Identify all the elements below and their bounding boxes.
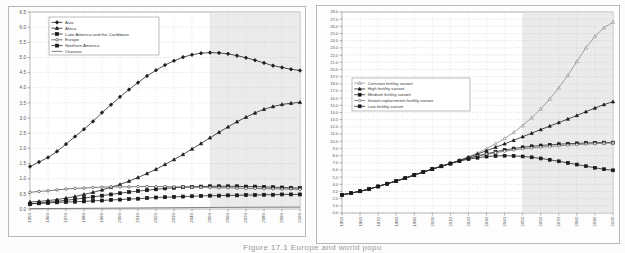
y-tick-label: 16.0 bbox=[330, 96, 339, 101]
series-marker bbox=[146, 197, 149, 200]
series-marker bbox=[549, 145, 551, 147]
series-marker bbox=[539, 157, 542, 160]
series-marker bbox=[404, 177, 407, 180]
series-marker bbox=[83, 187, 86, 190]
series-marker bbox=[272, 193, 275, 196]
y-tick-label: 6.0 bbox=[20, 25, 27, 30]
series-marker bbox=[263, 187, 266, 190]
x-tick-label: 1990 bbox=[412, 216, 417, 226]
legend-label-1: High fertility variant bbox=[368, 86, 405, 91]
series-marker bbox=[56, 39, 59, 42]
chart-legend: AsiaAfricaLatin America and the Caribbea… bbox=[49, 17, 159, 55]
series-marker bbox=[503, 150, 505, 152]
chart-left-frame: 0.00.51.01.52.02.53.03.54.04.55.05.56.06… bbox=[8, 6, 306, 237]
series-marker bbox=[38, 190, 41, 193]
series-marker bbox=[548, 158, 551, 161]
x-tick-label: 2070 bbox=[556, 216, 561, 226]
x-tick-label: 2070 bbox=[243, 212, 248, 222]
y-tick-label: 25.0 bbox=[330, 31, 339, 36]
series-marker bbox=[263, 193, 266, 196]
y-tick-label: 21.0 bbox=[330, 60, 339, 65]
series-marker bbox=[281, 188, 284, 191]
y-tick-label: 11.0 bbox=[331, 131, 339, 136]
series-marker bbox=[56, 33, 59, 36]
x-tick-label: 2060 bbox=[225, 212, 230, 222]
legend-label-2: Latin America and the Caribbean bbox=[65, 32, 130, 37]
y-tick-label: 2.0 bbox=[332, 196, 338, 201]
series-marker bbox=[350, 192, 353, 195]
series-marker bbox=[83, 200, 86, 203]
series-marker bbox=[110, 186, 113, 189]
series-marker bbox=[236, 187, 239, 190]
chart-panel-right: 0.01.02.03.04.05.06.07.08.09.010.011.012… bbox=[313, 0, 625, 253]
series-marker bbox=[56, 189, 59, 192]
series-marker bbox=[557, 160, 560, 163]
y-tick-label: 4.5 bbox=[20, 70, 27, 75]
series-marker bbox=[290, 188, 293, 191]
y-tick-label: 20.0 bbox=[330, 67, 339, 72]
y-tick-label: 18.0 bbox=[330, 81, 339, 86]
x-tick-label: 1970 bbox=[376, 216, 381, 226]
y-tick-label: 1.0 bbox=[20, 176, 27, 181]
series-marker bbox=[137, 197, 140, 200]
series-marker bbox=[47, 190, 50, 193]
series-marker bbox=[83, 197, 86, 200]
series-marker bbox=[110, 193, 113, 196]
series-marker bbox=[65, 201, 68, 204]
series-marker bbox=[567, 144, 569, 146]
series-marker bbox=[368, 188, 371, 191]
series-marker bbox=[358, 93, 361, 96]
series-marker bbox=[377, 185, 380, 188]
legend-label-0: Constant fertility variant bbox=[368, 81, 414, 86]
series-marker bbox=[612, 142, 614, 144]
y-tick-label: 3.0 bbox=[332, 189, 338, 194]
series-marker bbox=[576, 143, 578, 145]
series-marker bbox=[119, 198, 122, 201]
y-tick-label: 10.0 bbox=[330, 139, 339, 144]
series-marker bbox=[218, 187, 221, 190]
series-marker bbox=[119, 192, 122, 195]
series-marker bbox=[47, 201, 50, 204]
series-marker bbox=[74, 200, 77, 203]
series-marker bbox=[227, 187, 230, 190]
series-marker bbox=[92, 186, 95, 189]
series-marker bbox=[512, 154, 515, 157]
x-tick-label: 2040 bbox=[502, 216, 507, 226]
series-marker bbox=[245, 194, 248, 197]
y-tick-label: 0.0 bbox=[332, 210, 338, 215]
y-tick-label: 1.5 bbox=[20, 161, 27, 166]
series-marker bbox=[101, 194, 104, 197]
figure-container: 0.00.51.01.52.02.53.03.54.04.55.05.56.06… bbox=[0, 0, 625, 253]
series-marker bbox=[395, 180, 398, 183]
y-tick-label: 2.0 bbox=[20, 146, 27, 151]
x-tick-label: 2090 bbox=[279, 212, 284, 222]
x-tick-label: 2100 bbox=[297, 212, 302, 222]
x-tick-label: 2020 bbox=[153, 212, 158, 222]
series-marker bbox=[386, 182, 389, 185]
x-tick-label: 2000 bbox=[117, 212, 122, 222]
y-tick-label: 27.0 bbox=[330, 17, 339, 22]
x-tick-label: 1990 bbox=[99, 212, 104, 222]
series-marker bbox=[209, 186, 212, 189]
x-tick-label: 2020 bbox=[466, 216, 471, 226]
chart-left-svg: 0.00.51.01.52.02.53.03.54.04.55.05.56.06… bbox=[9, 7, 305, 236]
y-tick-label: 28.0 bbox=[330, 9, 339, 14]
series-marker bbox=[521, 148, 523, 150]
chart-right-svg: 0.01.02.03.04.05.06.07.08.09.010.011.012… bbox=[317, 6, 619, 243]
y-tick-label: 3.5 bbox=[20, 101, 27, 106]
series-marker bbox=[281, 193, 284, 196]
series-marker bbox=[155, 196, 158, 199]
series-marker bbox=[29, 191, 32, 194]
series-marker bbox=[65, 188, 68, 191]
series-marker bbox=[521, 155, 524, 158]
figure-caption: Figure 17.1 Europe and world popu bbox=[0, 242, 625, 253]
series-marker bbox=[92, 195, 95, 198]
y-tick-label: 24.0 bbox=[330, 38, 339, 43]
series-marker bbox=[56, 44, 59, 47]
series-marker bbox=[245, 187, 248, 190]
x-tick-label: 2000 bbox=[430, 216, 435, 226]
legend-label-5: Oceania bbox=[65, 49, 82, 54]
series-marker bbox=[359, 190, 362, 193]
y-tick-label: 12.0 bbox=[330, 124, 339, 129]
series-marker bbox=[530, 156, 533, 159]
